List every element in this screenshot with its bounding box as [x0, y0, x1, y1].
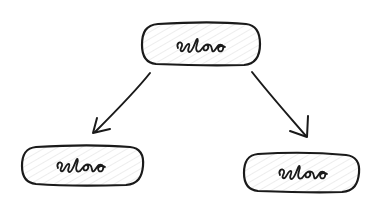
edge-root-to-left-child: [93, 73, 150, 133]
edge-root-to-right-child: [252, 72, 308, 137]
node-root[interactable]: [142, 23, 260, 66]
node-root-box: [142, 23, 260, 66]
tree-diagram: [0, 0, 385, 207]
arrow-line: [252, 72, 306, 136]
node-right-child-box: [244, 153, 359, 193]
node-right-child[interactable]: [244, 153, 359, 193]
arrow-line: [95, 73, 150, 132]
node-left-child-box: [22, 146, 143, 186]
node-left-child[interactable]: [22, 146, 143, 186]
